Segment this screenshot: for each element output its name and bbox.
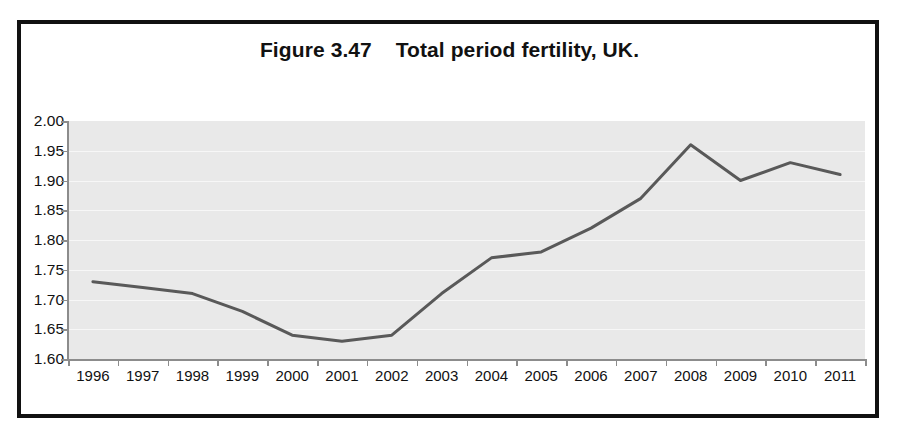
y-tick-label: 1.65 bbox=[18, 321, 64, 337]
y-tick-label: 1.70 bbox=[18, 292, 64, 308]
x-tick-mark bbox=[217, 359, 219, 366]
figure-root: Figure 3.47 Total period fertility, UK. … bbox=[0, 0, 899, 439]
x-tick-label: 1998 bbox=[168, 368, 218, 383]
series-line-chart bbox=[68, 121, 865, 359]
series-polyline bbox=[93, 145, 840, 341]
x-tick-label: 2009 bbox=[716, 368, 766, 383]
x-tick-label: 2007 bbox=[616, 368, 666, 383]
x-tick-mark bbox=[865, 359, 867, 366]
x-tick-mark bbox=[666, 359, 668, 366]
x-tick-mark bbox=[516, 359, 518, 366]
x-tick-label: 2002 bbox=[367, 368, 417, 383]
y-tick-mark bbox=[61, 240, 68, 242]
x-tick-mark bbox=[616, 359, 618, 366]
x-tick-mark bbox=[815, 359, 817, 366]
x-tick-label: 2005 bbox=[516, 368, 566, 383]
x-tick-label: 2011 bbox=[815, 368, 865, 383]
y-tick-mark bbox=[61, 329, 68, 331]
y-tick-mark bbox=[61, 300, 68, 302]
x-tick-mark bbox=[716, 359, 718, 366]
x-tick-label: 1999 bbox=[217, 368, 267, 383]
y-tick-label: 1.60 bbox=[18, 351, 64, 367]
x-tick-label: 2008 bbox=[666, 368, 716, 383]
x-tick-label: 2010 bbox=[765, 368, 815, 383]
y-tick-label: 1.95 bbox=[18, 143, 64, 159]
x-tick-mark bbox=[367, 359, 369, 366]
y-tick-label: 1.90 bbox=[18, 173, 64, 189]
y-tick-label: 2.00 bbox=[18, 113, 64, 129]
x-tick-mark bbox=[168, 359, 170, 366]
chart-title: Figure 3.47 Total period fertility, UK. bbox=[0, 38, 899, 62]
y-tick-label: 1.80 bbox=[18, 232, 64, 248]
x-tick-mark bbox=[566, 359, 568, 366]
x-tick-label: 2003 bbox=[417, 368, 467, 383]
x-tick-label: 2001 bbox=[317, 368, 367, 383]
x-tick-mark bbox=[467, 359, 469, 366]
x-tick-mark bbox=[317, 359, 319, 366]
x-axis-tick-labels: 1996199719981999200020012002200320042005… bbox=[68, 368, 865, 394]
y-tick-mark bbox=[61, 270, 68, 272]
y-tick-label: 1.85 bbox=[18, 202, 64, 218]
x-tick-mark bbox=[68, 359, 70, 366]
x-tick-mark bbox=[267, 359, 269, 366]
x-tick-label: 2004 bbox=[466, 368, 516, 383]
x-tick-label: 1997 bbox=[118, 368, 168, 383]
y-tick-mark bbox=[61, 210, 68, 212]
y-tick-label: 1.75 bbox=[18, 262, 64, 278]
x-tick-label: 2000 bbox=[267, 368, 317, 383]
plot-area bbox=[68, 121, 865, 359]
y-tick-mark bbox=[61, 121, 68, 123]
x-tick-label: 2006 bbox=[566, 368, 616, 383]
y-tick-mark bbox=[61, 151, 68, 153]
x-tick-label: 1996 bbox=[68, 368, 118, 383]
y-axis-tick-labels: 2.001.951.901.851.801.751.701.651.60 bbox=[18, 110, 64, 372]
y-tick-mark bbox=[61, 181, 68, 183]
x-tick-mark bbox=[765, 359, 767, 366]
x-tick-mark bbox=[118, 359, 120, 366]
x-tick-mark bbox=[417, 359, 419, 366]
y-tick-mark bbox=[61, 359, 68, 361]
